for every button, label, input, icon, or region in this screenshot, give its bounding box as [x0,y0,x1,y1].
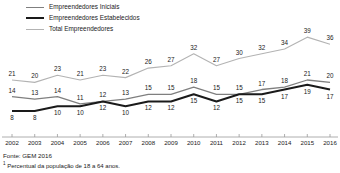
data-label: 34 [281,39,289,46]
data-label: 15 [236,84,244,91]
data-label: 12 [145,104,153,111]
data-label: 13 [31,89,39,96]
source-text: Fonte: GEM 2016 [3,152,337,160]
x-axis-tick-label: 2015 [301,139,315,146]
data-label: 36 [326,34,334,41]
x-axis-tick-label: 2014 [278,139,292,146]
data-label: 20 [31,72,39,79]
x-axis-tick-label: 2003 [28,139,42,146]
data-label: 15 [167,84,175,91]
series-layer [12,37,330,111]
data-label: 15 [145,84,153,91]
data-label: 15 [236,97,244,104]
chart-container: Empreendedores Iniciais Empreendedores E… [0,0,340,173]
x-axis-tick-label: 2016 [323,139,337,146]
data-label: 23 [54,65,62,72]
data-label: 27 [167,56,175,63]
data-label: 11 [77,94,84,101]
x-axis: 2002200320042005200620072008200920102011… [2,134,338,146]
data-label: 32 [258,44,266,51]
data-label: 23 [99,65,107,72]
data-label: 20 [326,72,334,79]
data-label: 10 [122,109,130,116]
chart-footer: Fonte: GEM 2016 1 Percentual da populaçã… [3,152,337,170]
data-label: 15 [258,97,266,104]
data-label: 39 [304,27,312,34]
data-label: 26 [145,58,153,65]
x-axis-tick-label: 2002 [5,139,19,146]
data-label: 21 [8,70,16,77]
data-label: 17 [258,80,266,87]
x-axis-tick-label: 2006 [96,139,110,146]
data-label: 10 [54,109,62,116]
line-chart-plot: 2120232123222627322730323439361413141112… [0,0,340,152]
data-label: 12 [213,104,221,111]
x-axis-tick-label: 2007 [119,139,133,146]
data-label: 13 [122,89,130,96]
data-label: 8 [33,114,37,121]
x-axis-tick-label: 2010 [187,139,201,146]
data-label: 15 [190,97,198,104]
x-axis-tick-label: 2004 [51,139,65,146]
data-label: 17 [326,93,334,100]
data-label: 15 [213,84,221,91]
data-label: 12 [99,91,107,98]
data-label: 32 [190,44,198,51]
x-axis-tick-label: 2012 [232,139,246,146]
data-label: 21 [77,70,85,77]
data-label: 22 [122,68,130,75]
data-label: 30 [236,49,244,56]
data-label: 14 [8,87,16,94]
data-label: 19 [304,88,312,95]
footnote-text: 1 Percentual da população de 18 a 64 ano… [3,160,337,170]
data-label: 14 [54,87,62,94]
data-label: 17 [281,93,289,100]
x-axis-tick-label: 2011 [210,139,224,146]
x-axis-tick-label: 2008 [142,139,156,146]
data-label: 10 [77,109,85,116]
x-axis-tick-label: 2013 [255,139,269,146]
data-label: 8 [10,114,14,121]
footnote-body: Percentual da população de 18 a 64 anos. [6,163,120,169]
data-label: 12 [99,104,107,111]
x-axis-tick-label: 2009 [164,139,178,146]
data-label: 27 [213,56,221,63]
data-label: 18 [190,77,198,84]
data-label: 18 [281,77,289,84]
data-label: 12 [167,104,175,111]
data-label: 21 [304,70,312,77]
x-axis-tick-label: 2005 [73,139,87,146]
